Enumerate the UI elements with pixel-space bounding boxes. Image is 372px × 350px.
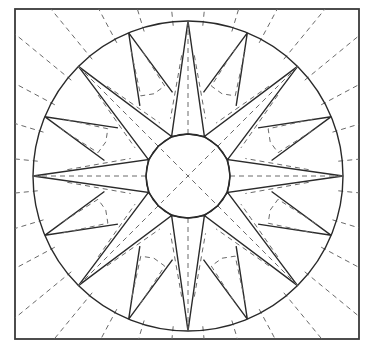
long-point-echo-dash	[216, 86, 269, 123]
long-point-echo-dash	[98, 204, 135, 257]
radial-dash-line	[321, 247, 359, 267]
radial-quilting-lines	[15, 9, 359, 339]
radial-dash-line	[203, 9, 205, 26]
radial-dash-line	[51, 9, 92, 59]
block-border-square	[15, 9, 359, 339]
radial-dash-line	[305, 36, 359, 81]
radial-dash-line	[15, 34, 71, 80]
long-point-echo-dash	[241, 204, 278, 257]
short-point-echo-dash	[211, 256, 245, 304]
radial-dash-line	[259, 309, 275, 339]
short-point-echo-dash	[60, 199, 108, 233]
radial-dash-line	[203, 326, 204, 339]
long-point-center-dash	[218, 66, 298, 146]
long-point-echo-dash	[241, 95, 278, 148]
radial-dash-line	[54, 293, 92, 339]
radial-dash-line	[259, 9, 277, 43]
radial-dash-line	[338, 159, 359, 161]
radial-dash-line	[338, 191, 359, 193]
short-point-echo-dash	[131, 48, 165, 96]
short-point-echo-dash	[268, 199, 316, 233]
radial-dash-line	[15, 272, 71, 318]
long-point-center-dash	[78, 66, 158, 146]
radial-dash-line	[284, 293, 322, 339]
short-point-echo-dash	[131, 256, 165, 304]
radial-dash-line	[99, 9, 117, 43]
radial-dash-line	[284, 9, 325, 59]
long-point-echo-dash	[107, 229, 160, 266]
radial-dash-line	[101, 309, 117, 339]
short-point-echo-dash	[60, 119, 108, 153]
center-cross-quilting-lines	[161, 149, 215, 203]
radial-dash-line	[305, 272, 359, 317]
short-point-echo-dash	[268, 119, 316, 153]
long-point-echo-dash	[107, 86, 160, 123]
compass-quilt-diagram	[0, 0, 372, 350]
short-point-echo-dash	[211, 48, 245, 96]
radial-dash-line	[172, 326, 173, 339]
long-point-echo-dash	[216, 229, 269, 266]
long-point-echo-dash	[98, 95, 135, 148]
long-point-center-dash	[78, 206, 158, 286]
radial-dash-line	[15, 247, 55, 268]
long-point-center-dash	[218, 206, 298, 286]
radial-dash-line	[172, 9, 174, 26]
radial-dash-line	[321, 85, 359, 105]
radial-dash-line	[15, 84, 55, 105]
